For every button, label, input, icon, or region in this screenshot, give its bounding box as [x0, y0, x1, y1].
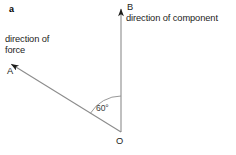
- label-point-a: A: [7, 66, 13, 77]
- label-origin-point: O: [116, 136, 123, 147]
- vector-line-oa: [11, 64, 121, 132]
- label-direction-of-force: direction of force: [5, 34, 83, 57]
- label-point-b: B: [127, 2, 133, 13]
- figure-panel: a direction of force direction of compon…: [0, 0, 236, 155]
- label-direction-of-component: direction of component: [126, 13, 218, 24]
- panel-letter: a: [9, 4, 14, 15]
- label-angle-60-degrees: 60°: [96, 103, 109, 113]
